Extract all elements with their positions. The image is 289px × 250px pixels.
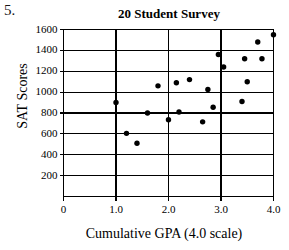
data-point [245,79,250,84]
x-tick-label: 2.0 [153,203,185,215]
data-point [134,141,139,146]
data-point [221,64,226,69]
data-point [242,56,247,61]
x-tick-label: 0 [48,203,80,215]
data-point [166,117,171,122]
data-point [216,52,221,57]
y-tick-label: 600 [24,127,58,139]
data-point [113,100,118,105]
y-tick-label: 200 [24,169,58,181]
y-tick-label: 1000 [24,85,58,97]
data-point [200,119,205,124]
data-point [174,80,179,85]
data-point [205,87,210,92]
y-tick-label: 800 [24,106,58,118]
y-tick-label: 1600 [24,23,58,35]
x-tick-label: 3.0 [205,203,237,215]
scatter-plot [0,0,288,250]
data-point [239,99,244,104]
x-tick-label: 4.0 [258,203,289,215]
x-tick-label: 1.0 [100,203,132,215]
axis-ticks [60,30,274,201]
y-tick-label: 1200 [24,64,58,76]
data-point [271,32,276,37]
data-point [255,39,260,44]
data-points [113,32,276,146]
data-point [259,56,264,61]
data-point [155,83,160,88]
data-point [210,105,215,110]
y-tick-label: 1400 [24,43,58,55]
data-point [124,131,129,136]
y-tick-label: 400 [24,148,58,160]
data-point [145,110,150,115]
data-point [187,77,192,82]
figure-container: 5. 20 Student Survey SAT Scores Cumulati… [0,0,288,250]
data-point [176,109,181,114]
